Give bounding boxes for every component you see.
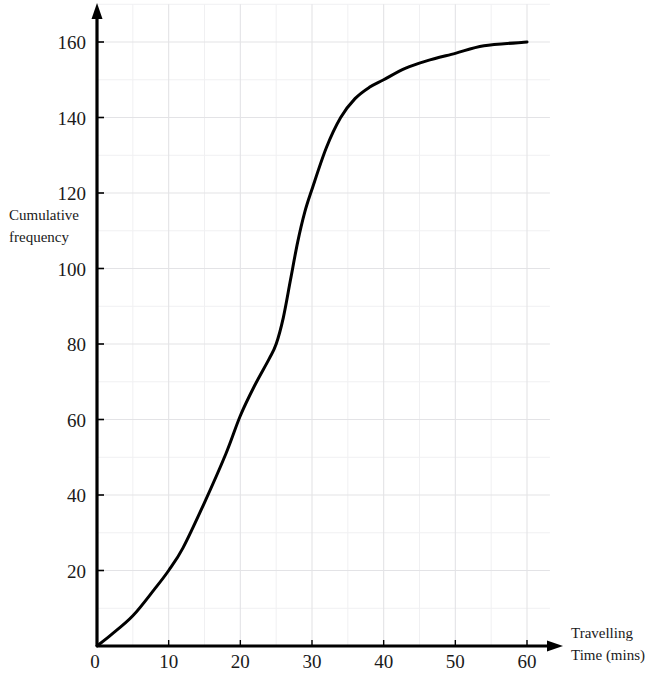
y-axis-tick-label: 120 bbox=[36, 184, 86, 203]
x-axis-tick-label: 40 bbox=[374, 652, 393, 671]
y-axis-title-line-2: frequency bbox=[9, 227, 79, 249]
grid-major bbox=[97, 4, 550, 646]
x-axis-arrow-icon bbox=[547, 641, 563, 652]
y-axis-tick-label: 40 bbox=[36, 486, 86, 505]
x-axis-title-line-1: Travelling bbox=[571, 623, 645, 645]
x-axis-tick-label: 20 bbox=[231, 652, 250, 671]
y-axis-tick-label: 140 bbox=[36, 108, 86, 127]
y-axis-title: Cumulative frequency bbox=[9, 205, 79, 249]
grid-minor bbox=[97, 4, 550, 646]
y-axis-title-line-1: Cumulative bbox=[9, 205, 79, 227]
x-axis-title: Travelling Time (mins) bbox=[571, 623, 645, 667]
x-axis-tick-label: 10 bbox=[159, 652, 178, 671]
y-axis-arrow-icon bbox=[92, 3, 103, 19]
y-axis-tick-label: 160 bbox=[36, 33, 86, 52]
x-axis-title-line-2: Time (mins) bbox=[571, 645, 645, 667]
x-axis-tick-label: 30 bbox=[303, 652, 322, 671]
x-axis-tick-label: 50 bbox=[446, 652, 465, 671]
y-axis-tick-label: 60 bbox=[36, 410, 86, 429]
x-axis-tick-label: 0 bbox=[90, 652, 100, 671]
y-axis-tick-label: 100 bbox=[36, 259, 86, 278]
y-axis-tick-label: 20 bbox=[36, 561, 86, 580]
y-axis-tick-label: 80 bbox=[36, 335, 86, 354]
x-axis-tick-label: 60 bbox=[518, 652, 537, 671]
axis-lines bbox=[92, 3, 564, 652]
